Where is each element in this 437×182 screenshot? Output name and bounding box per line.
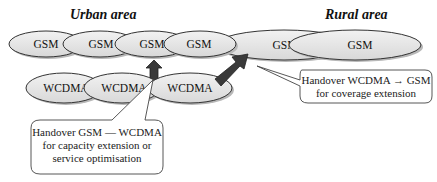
- callout-text-line: Handover WCDMA → GSM: [301, 74, 430, 86]
- rural-area-title: Rural area: [324, 7, 388, 22]
- cell-label: GSM: [348, 39, 373, 51]
- rural-gsm-cell-2: GSM: [289, 30, 423, 62]
- cell-label: GSM: [140, 38, 165, 50]
- cell-label: GSM: [187, 38, 212, 50]
- cell-label: WCDMA: [167, 82, 213, 94]
- diagonal-arrow-icon: [215, 54, 248, 86]
- callout-text-line: service optimisation: [53, 152, 142, 164]
- cell-label: GSM: [34, 38, 59, 50]
- urban-area-title: Urban area: [70, 7, 137, 22]
- callout-text-line: for capacity extension or: [42, 139, 151, 151]
- cell-label: GSM: [89, 38, 114, 50]
- callout-rural-handover: Handover WCDMA → GSM for coverage extens…: [257, 66, 432, 103]
- network-diagram: Urban area Rural area GSM GSM GSM GSM GS…: [0, 0, 437, 182]
- cell-label: WCDMA: [43, 82, 89, 94]
- callout-text-line: for coverage extension: [316, 87, 417, 99]
- callout-text-line: Handover GSM — WCDMA: [32, 126, 162, 138]
